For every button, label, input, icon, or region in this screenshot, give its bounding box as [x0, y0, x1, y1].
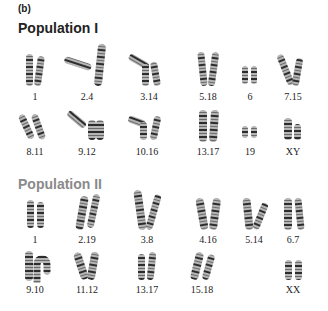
chromosome-pair — [62, 42, 112, 88]
pair-label: 7.15 — [263, 91, 323, 102]
chromosome-pair — [268, 196, 318, 232]
population-1-title: Population I — [18, 20, 98, 36]
chromosome-pair — [62, 110, 112, 142]
pair-label: 6.7 — [263, 234, 323, 245]
chromosome-pair — [10, 249, 60, 283]
pair-label: 2.4 — [57, 91, 117, 102]
chromosome-pair — [124, 52, 174, 88]
pair-label: 15.18 — [172, 284, 232, 295]
pair-label: 3.14 — [119, 91, 179, 102]
chromosome-pair — [268, 258, 318, 282]
chromosome-pair — [268, 116, 318, 142]
pair-label: XX — [263, 284, 323, 295]
chromosome-pair — [122, 250, 172, 282]
pair-label: 10.16 — [117, 146, 177, 157]
chromosome-pair — [122, 112, 172, 142]
pair-label: 9.10 — [5, 284, 65, 295]
chromosome-pair — [177, 250, 227, 282]
chromosome-pair — [62, 192, 112, 232]
chromosome-pair — [62, 250, 112, 282]
pair-label: 3.8 — [117, 234, 177, 245]
pair-label: 13.17 — [117, 284, 177, 295]
pair-label: 2.19 — [57, 234, 117, 245]
chromosome-pair — [10, 52, 60, 88]
pair-label: 1 — [5, 234, 65, 245]
chromosome-pair — [10, 198, 60, 230]
chromosome-pair — [122, 188, 172, 232]
pair-label: 1 — [5, 91, 65, 102]
chromosome-pair — [183, 196, 233, 232]
pair-label: XY — [263, 146, 323, 157]
pair-label: 8.11 — [5, 146, 65, 157]
pair-label: 11.12 — [57, 284, 117, 295]
panel-label: (b) — [18, 3, 31, 14]
population-2-title: Population II — [18, 176, 102, 192]
chromosome-pair — [10, 112, 60, 142]
pair-label: 9.12 — [57, 146, 117, 157]
chromosome-pair — [268, 52, 318, 88]
